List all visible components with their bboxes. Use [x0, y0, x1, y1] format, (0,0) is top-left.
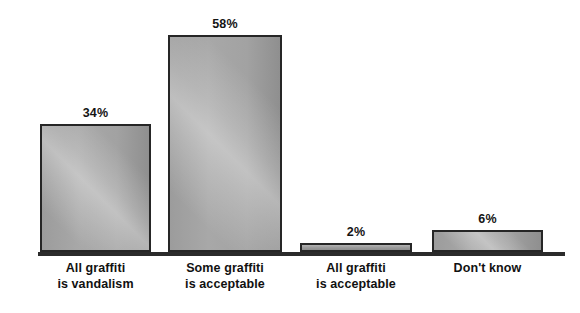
- category-label-some-graffiti-is-acceptable: Some graffiti is acceptable: [153, 260, 297, 292]
- bar-group-some-graffiti-is-acceptable: 58%: [168, 0, 282, 256]
- category-label-line-2: is vandalism: [24, 276, 167, 292]
- category-label-line-1: Some graffiti: [153, 260, 297, 276]
- bar-dont-know[interactable]: [432, 230, 543, 252]
- bar-all-graffiti-is-acceptable[interactable]: [300, 243, 412, 252]
- category-label-line-1: All graffiti: [24, 260, 167, 276]
- bar-some-graffiti-is-acceptable[interactable]: [168, 35, 282, 252]
- bar-value-label-dont-know: 6%: [432, 212, 543, 226]
- category-label-all-graffiti-is-acceptable: All graffiti is acceptable: [284, 260, 428, 292]
- bar-all-graffiti-is-vandalism[interactable]: [40, 124, 151, 252]
- category-label-dont-know: Don't know: [416, 260, 559, 276]
- category-label-line-1: Don't know: [416, 260, 559, 276]
- category-label-line-1: All graffiti: [284, 260, 428, 276]
- x-axis-baseline: [38, 252, 565, 256]
- bar-value-label-all-graffiti-is-vandalism: 34%: [40, 106, 151, 120]
- bar-group-all-graffiti-is-vandalism: 34%: [40, 0, 151, 256]
- category-label-line-2: is acceptable: [284, 276, 428, 292]
- plot-area: 34% 58% 2% 6%: [0, 0, 580, 256]
- bar-chart: 34% 58% 2% 6% All graffiti is vandalism …: [0, 0, 580, 313]
- bar-value-label-all-graffiti-is-acceptable: 2%: [300, 225, 412, 239]
- bar-group-all-graffiti-is-acceptable: 2%: [300, 0, 412, 256]
- category-label-all-graffiti-is-vandalism: All graffiti is vandalism: [24, 260, 167, 292]
- bar-group-dont-know: 6%: [432, 0, 543, 256]
- bar-value-label-some-graffiti-is-acceptable: 58%: [168, 17, 282, 31]
- category-label-line-2: is acceptable: [153, 276, 297, 292]
